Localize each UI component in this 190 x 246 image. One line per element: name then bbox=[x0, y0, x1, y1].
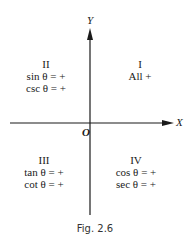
quadrant-numeral: IV bbox=[108, 154, 164, 166]
quadrant-3-label: III tan θ = + cot θ = + bbox=[16, 154, 72, 190]
origin-label: O bbox=[82, 126, 90, 138]
x-axis-label: X bbox=[176, 116, 183, 128]
y-axis-arrowhead bbox=[87, 28, 93, 40]
quadrant-numeral: I bbox=[115, 58, 165, 70]
quadrant-numeral: II bbox=[18, 58, 74, 70]
quadrant-line: cot θ = + bbox=[16, 178, 72, 190]
quadrant-line: cos θ = + bbox=[108, 166, 164, 178]
x-axis-arrowhead bbox=[162, 120, 174, 126]
quadrant-line: All + bbox=[115, 70, 165, 82]
figure-caption: Fig. 2.6 bbox=[0, 223, 190, 234]
quadrant-line: tan θ = + bbox=[16, 166, 72, 178]
quadrant-line: sec θ = + bbox=[108, 178, 164, 190]
y-axis-label: Y bbox=[87, 14, 93, 26]
quadrant-line: sin θ = + bbox=[18, 70, 74, 82]
quadrant-line: csc θ = + bbox=[18, 82, 74, 94]
quadrant-1-label: I All + bbox=[115, 58, 165, 82]
quadrant-2-label: II sin θ = + csc θ = + bbox=[18, 58, 74, 94]
quadrant-4-label: IV cos θ = + sec θ = + bbox=[108, 154, 164, 190]
quadrant-numeral: III bbox=[16, 154, 72, 166]
axes-graphic bbox=[0, 0, 190, 246]
